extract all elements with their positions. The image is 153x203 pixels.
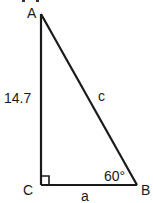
vertex-label-c: C (23, 182, 33, 198)
vertex-label-b: B (141, 182, 150, 198)
side-ab (41, 14, 137, 185)
angle-label-b: 60° (104, 168, 125, 184)
vertex-label-a: A (27, 5, 37, 21)
right-angle-marker (41, 176, 49, 185)
triangle-diagram: A C B 14.7 c a 60° (0, 0, 153, 203)
side-label-ab: c (98, 88, 105, 104)
cropped-text-remnant (22, 0, 39, 2)
side-label-ac: 14.7 (4, 90, 31, 106)
side-label-cb: a (81, 188, 89, 203)
